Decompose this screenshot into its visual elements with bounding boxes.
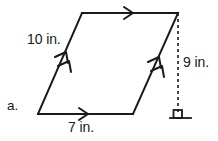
parallelogram-outline	[38, 13, 178, 114]
right-angle-square-icon	[170, 110, 191, 118]
parallelogram-left-edge	[38, 13, 82, 114]
height-length-label: 9 in.	[183, 55, 209, 69]
parallelogram-diagram-svg	[0, 0, 218, 141]
parallelogram-right-edge	[133, 13, 178, 114]
problem-item-label: a.	[7, 99, 18, 113]
bottom-side-length-label: 7 in.	[68, 120, 94, 134]
geometry-figure-parallelogram: 10 in. 7 in. 9 in. a.	[0, 0, 218, 141]
left-side-length-label: 10 in.	[27, 32, 61, 46]
